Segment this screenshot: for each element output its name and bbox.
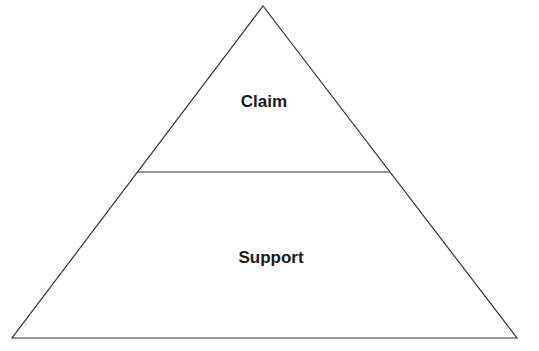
level-label-support: Support bbox=[238, 248, 303, 267]
level-label-claim: Claim bbox=[241, 92, 287, 111]
pyramid-diagram: Claim Support bbox=[0, 0, 539, 351]
